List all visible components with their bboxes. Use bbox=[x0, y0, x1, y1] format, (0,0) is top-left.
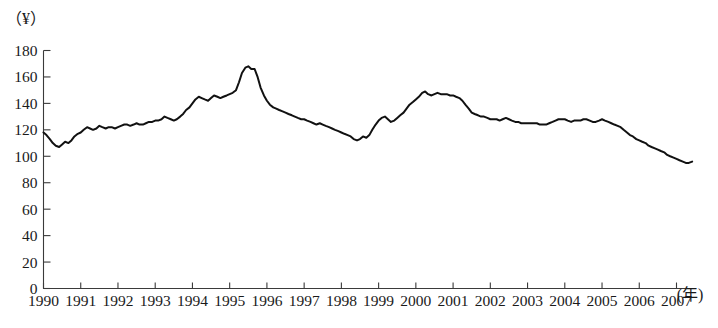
y-axis-unit-label: （¥） bbox=[6, 10, 46, 27]
y-tick-label: 60 bbox=[22, 201, 38, 218]
x-axis-ticks bbox=[44, 283, 677, 289]
x-tick-label: 1996 bbox=[251, 292, 282, 309]
x-tick-label: 2005 bbox=[587, 292, 618, 309]
x-tick-label: 1997 bbox=[289, 292, 320, 309]
data-series-line bbox=[44, 66, 693, 163]
y-axis-ticks bbox=[44, 51, 51, 289]
y-tick-label: 160 bbox=[14, 68, 38, 85]
y-tick-label: 140 bbox=[14, 95, 38, 112]
x-tick-label: 2004 bbox=[549, 292, 580, 309]
x-tick-label: 1991 bbox=[65, 292, 96, 309]
x-tick-label: 1994 bbox=[177, 292, 208, 309]
figure-caption bbox=[0, 316, 718, 327]
x-tick-label: 1992 bbox=[102, 292, 133, 309]
x-tick-label: 1993 bbox=[140, 292, 171, 309]
x-axis-unit-label: (年) bbox=[677, 286, 704, 304]
x-tick-label: 1995 bbox=[214, 292, 245, 309]
x-tick-label: 1998 bbox=[326, 292, 357, 309]
y-tick-label: 80 bbox=[22, 174, 38, 191]
y-tick-label: 20 bbox=[22, 254, 38, 271]
x-tick-label: 2001 bbox=[438, 292, 469, 309]
axes bbox=[44, 51, 691, 289]
x-tick-label: 1990 bbox=[28, 292, 59, 309]
x-tick-label: 2003 bbox=[512, 292, 543, 309]
y-tick-label: 180 bbox=[14, 42, 38, 59]
x-tick-label: 2000 bbox=[400, 292, 431, 309]
x-tick-label: 1999 bbox=[363, 292, 394, 309]
chart-figure: 020406080100120140160180 199019911992199… bbox=[0, 0, 718, 328]
series-index bbox=[44, 66, 693, 163]
x-axis-tick-labels: 1990199119921993199419951996199719981999… bbox=[28, 292, 692, 309]
x-tick-label: 2002 bbox=[475, 292, 506, 309]
x-tick-label: 2006 bbox=[624, 292, 655, 309]
y-axis-tick-labels: 020406080100120140160180 bbox=[14, 42, 38, 297]
line-chart: 020406080100120140160180 199019911992199… bbox=[0, 0, 718, 328]
y-tick-label: 100 bbox=[14, 148, 38, 165]
y-tick-label: 120 bbox=[14, 121, 38, 138]
y-tick-label: 40 bbox=[22, 227, 38, 244]
